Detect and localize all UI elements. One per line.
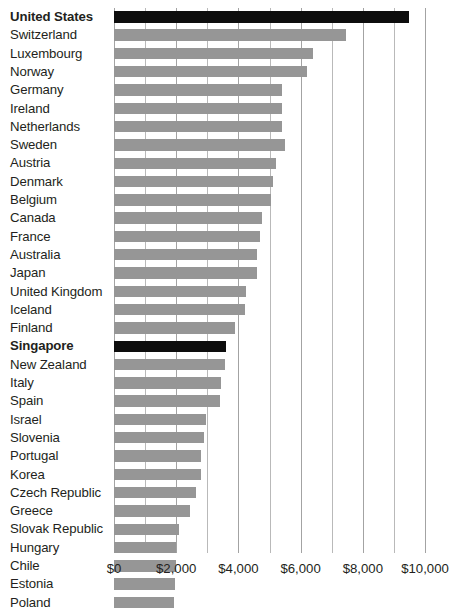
bar-row[interactable]: Belgium [0,191,453,209]
x-tick-label: $0 [107,561,122,577]
bar[interactable] [114,139,285,150]
bar-row[interactable]: Finland [0,319,453,337]
category-label: Austria [10,154,112,172]
category-label: Germany [10,81,112,99]
bar-row[interactable]: Slovak Republic [0,520,453,538]
category-label: Italy [10,374,112,392]
category-label: Belgium [10,191,112,209]
bar-row[interactable]: Korea [0,466,453,484]
bar[interactable] [114,66,307,77]
category-label: Israel [10,411,112,429]
category-label: Spain [10,392,112,410]
category-label: Ireland [10,100,112,118]
bar[interactable] [114,359,225,370]
bar-row[interactable]: New Zealand [0,356,453,374]
bar[interactable] [114,176,273,187]
bar[interactable] [114,432,204,443]
bar-row[interactable]: Australia [0,246,453,264]
category-label: Australia [10,246,112,264]
bar-row[interactable]: Denmark [0,173,453,191]
bar[interactable] [114,524,179,535]
bar-row[interactable]: Ireland [0,100,453,118]
plot-area: United StatesSwitzerlandLuxembourgNorway… [0,0,453,560]
x-tick-label: $10,000 [401,561,449,577]
x-tick-label: $2,000 [156,561,196,577]
category-label: United States [10,8,112,26]
bar[interactable] [114,29,346,40]
bar[interactable] [114,48,313,59]
bar[interactable] [114,487,196,498]
bar[interactable] [114,341,226,352]
bar[interactable] [114,377,221,388]
bar-row[interactable]: Canada [0,209,453,227]
bar[interactable] [114,597,174,608]
bar-row[interactable]: Israel [0,411,453,429]
category-label: United Kingdom [10,283,112,301]
category-label: Japan [10,264,112,282]
bar[interactable] [114,450,201,461]
bar-row[interactable]: Luxembourg [0,45,453,63]
bar[interactable] [114,194,271,205]
bar-row[interactable]: France [0,228,453,246]
category-label: Korea [10,466,112,484]
category-label: Luxembourg [10,45,112,63]
category-label: New Zealand [10,356,112,374]
category-label: Norway [10,63,112,81]
bar[interactable] [114,542,176,553]
bar[interactable] [114,469,201,480]
bar-row[interactable]: United States [0,8,453,26]
bar[interactable] [114,212,262,223]
bar-row[interactable]: Norway [0,63,453,81]
bar-row[interactable]: Spain [0,392,453,410]
bar-row[interactable]: Singapore [0,337,453,355]
bar-row[interactable]: Netherlands [0,118,453,136]
category-label: Slovak Republic [10,520,112,538]
bar-row[interactable]: Switzerland [0,26,453,44]
x-tick-label: $6,000 [280,561,320,577]
bar-row[interactable]: Iceland [0,301,453,319]
bar[interactable] [114,395,220,406]
bar-row[interactable]: Portugal [0,447,453,465]
bar-row[interactable]: Japan [0,264,453,282]
bar-row[interactable]: United Kingdom [0,283,453,301]
category-label: Switzerland [10,26,112,44]
bar[interactable] [114,158,276,169]
x-tick-label: $8,000 [343,561,383,577]
category-label: Iceland [10,301,112,319]
bar-row[interactable]: Slovenia [0,429,453,447]
category-label: Netherlands [10,118,112,136]
category-label: Singapore [10,337,112,355]
bar[interactable] [114,84,282,95]
category-label: Czech Republic [10,484,112,502]
bar[interactable] [114,286,246,297]
x-tick-label: $4,000 [218,561,258,577]
bar[interactable] [114,267,257,278]
bar[interactable] [114,231,260,242]
x-axis: $0$2,000$4,000$6,000$8,000$10,000 [0,553,453,587]
category-label: Finland [10,319,112,337]
bar[interactable] [114,249,257,260]
bar[interactable] [114,121,282,132]
category-label: Sweden [10,136,112,154]
category-label: France [10,228,112,246]
category-label: Poland [10,594,112,612]
category-label: Portugal [10,447,112,465]
bar-row[interactable]: Italy [0,374,453,392]
bar-row[interactable]: Germany [0,81,453,99]
bar-row[interactable]: Sweden [0,136,453,154]
category-label: Denmark [10,173,112,191]
bar-row[interactable]: Czech Republic [0,484,453,502]
bar[interactable] [114,414,206,425]
bar[interactable] [114,11,409,22]
bar[interactable] [114,304,245,315]
bar[interactable] [114,103,282,114]
bar-row[interactable]: Poland [0,594,453,612]
bar[interactable] [114,505,190,516]
category-label: Canada [10,209,112,227]
category-label: Greece [10,502,112,520]
bar-row[interactable]: Austria [0,154,453,172]
bar[interactable] [114,322,235,333]
bar-row[interactable]: Greece [0,502,453,520]
category-label: Slovenia [10,429,112,447]
